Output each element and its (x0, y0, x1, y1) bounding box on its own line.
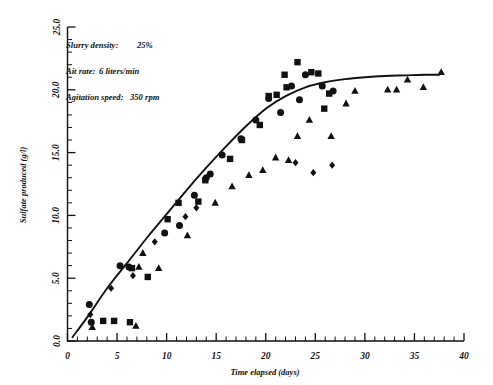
data-point-square (127, 319, 133, 325)
x-tick-label-5: 5 (115, 351, 120, 361)
data-point-square (175, 200, 181, 206)
data-point-circle (302, 71, 309, 78)
data-point-circle (277, 109, 284, 116)
y-tick-label-15.0: 15.0 (52, 144, 62, 161)
data-point-square (315, 70, 321, 76)
y-tick-label-25.0: 25.0 (52, 18, 62, 36)
data-point-diamond (130, 272, 136, 279)
data-point-square (294, 59, 300, 65)
data-point-triangle (228, 183, 235, 190)
x-axis-title: Time elapsed (days) (230, 367, 299, 377)
data-point-square (321, 105, 327, 111)
data-point-circle (296, 96, 303, 103)
data-point-triangle (393, 86, 400, 93)
y-tick-label-10.0: 10.0 (52, 207, 62, 224)
data-point-square (202, 177, 208, 183)
y-tick-label-20.0: 20.0 (52, 81, 62, 99)
data-point-square (145, 274, 151, 280)
x-tick-label-0: 0 (65, 351, 70, 361)
data-point-triangle (294, 132, 301, 139)
y-tick-label-0.0: 0.0 (52, 335, 62, 347)
annotation-agitation-speed-value: 350 rpm (129, 92, 160, 102)
y-tick-label-5.0: 5.0 (52, 272, 62, 284)
x-tick-label-35: 35 (409, 351, 420, 361)
annotation-slurry-density-value: 25% (136, 40, 153, 50)
data-point-circle (86, 301, 93, 308)
data-point-triangle (404, 76, 411, 83)
data-point-square (308, 69, 314, 75)
x-tick-label-30: 30 (359, 351, 370, 361)
data-point-circle (191, 192, 198, 199)
data-point-circle (117, 262, 124, 269)
data-point-square (273, 92, 279, 98)
data-point-square (283, 84, 289, 90)
x-tick-label-20: 20 (260, 351, 271, 361)
annotation-air-rate-label: Ait rate: (65, 66, 95, 76)
x-axis-tick-labels: 0510152025303540 (65, 351, 469, 361)
data-point-triangle (342, 100, 349, 107)
data-point-triangle (438, 68, 445, 75)
data-point-square (326, 90, 332, 96)
data-point-circle (161, 229, 168, 236)
x-tick-label-40: 40 (458, 351, 469, 361)
plot-annotations: Slurry density: 25% Ait rate: 6 liters/m… (65, 40, 160, 102)
data-point-circle (176, 222, 183, 229)
fitted-trend-curve (72, 75, 439, 338)
data-point-square (195, 198, 201, 204)
data-point-diamond (152, 238, 158, 245)
series-circle-series (86, 71, 337, 325)
x-tick-label-25: 25 (310, 351, 321, 361)
data-point-square (281, 72, 287, 78)
data-point-square (266, 93, 272, 99)
data-point-square (100, 318, 106, 324)
data-point-diamond (329, 162, 335, 169)
annotation-air-rate-value: 6 liters/min (99, 66, 140, 76)
data-point-triangle (245, 171, 252, 178)
data-point-circle (219, 152, 226, 159)
data-point-triangle (384, 86, 391, 93)
data-point-square (164, 216, 170, 222)
data-point-diamond (182, 213, 188, 220)
y-axis-title: Sulfate produced (g/l) (18, 147, 28, 224)
data-point-diamond (292, 159, 298, 166)
data-point-triangle (259, 166, 266, 173)
data-point-triangle (132, 322, 139, 329)
data-point-triangle (351, 87, 358, 94)
data-point-triangle (211, 199, 218, 206)
data-point-diamond (310, 169, 316, 176)
data-point-triangle (306, 116, 313, 123)
data-point-triangle (327, 132, 334, 139)
annotation-slurry-density-label: Slurry density: (66, 40, 118, 50)
data-point-square (227, 156, 233, 162)
y-axis-tick-labels: 0.05.010.015.020.025.0 (52, 18, 62, 347)
data-point-circle (319, 83, 326, 90)
data-point-triangle (420, 83, 427, 90)
x-tick-label-10: 10 (162, 351, 172, 361)
data-point-triangle (135, 263, 142, 270)
data-point-circle (88, 319, 95, 326)
x-tick-label-15: 15 (211, 351, 221, 361)
data-point-triangle (184, 231, 191, 238)
figure-container: Slurry density: 25% Ait rate: 6 liters/m… (0, 0, 493, 385)
data-point-triangle (155, 264, 162, 271)
data-point-square (129, 265, 135, 271)
series-diamond-series (87, 159, 335, 318)
sulfate-production-scatter-chart: Slurry density: 25% Ait rate: 6 liters/m… (0, 0, 493, 385)
x-axis-ticks (68, 333, 465, 341)
data-point-triangle (285, 156, 292, 163)
data-point-triangle (139, 249, 146, 256)
data-point-square (257, 122, 263, 128)
data-point-triangle (272, 154, 279, 161)
annotation-agitation-speed-label: Agitation speed: (65, 92, 124, 102)
data-point-diamond (193, 204, 199, 211)
data-point-square (239, 137, 245, 143)
data-point-circle (207, 170, 214, 177)
data-point-square (111, 318, 117, 324)
